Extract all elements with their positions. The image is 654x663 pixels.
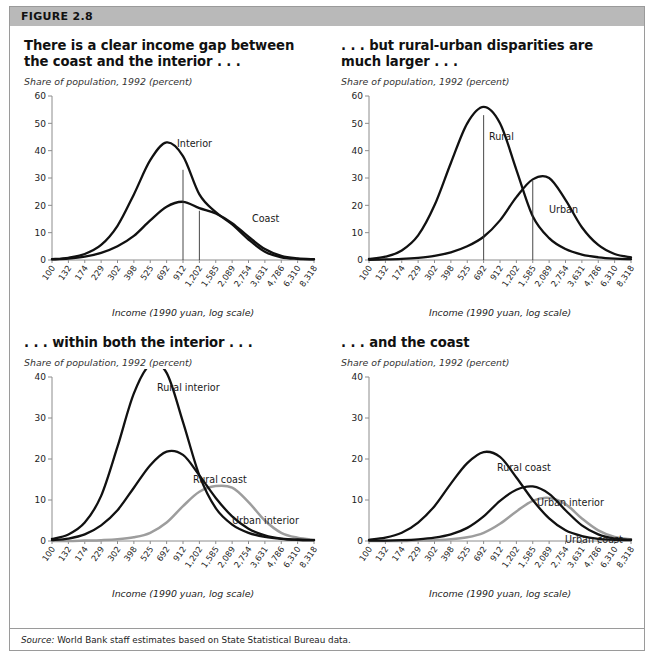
x-tick-label: 525 bbox=[138, 264, 155, 283]
panel-title: . . . but rural-urban disparities are mu… bbox=[341, 38, 636, 70]
y-tick-label: 60 bbox=[352, 91, 364, 101]
series-label: Coast bbox=[252, 213, 279, 224]
x-tick-label: 132 bbox=[373, 264, 390, 283]
x-tick-label: 302 bbox=[422, 264, 439, 283]
panel-title: . . . within both the interior . . . bbox=[24, 335, 319, 351]
x-tick-label: 100 bbox=[357, 545, 374, 564]
figure-number-band: FIGURE 2.8 bbox=[10, 7, 644, 27]
x-axis-title: Income (1990 yuan, log scale) bbox=[429, 588, 571, 599]
x-tick-label: 132 bbox=[373, 545, 390, 564]
x-axis-title: Income (1990 yuan, log scale) bbox=[429, 307, 571, 318]
x-tick-label: 692 bbox=[471, 545, 488, 564]
panel-coast-vs-interior: There is a clear income gap between the … bbox=[10, 31, 327, 328]
panel-title: There is a clear income gap between the … bbox=[24, 38, 319, 70]
panel-title: . . . and the coast bbox=[341, 335, 636, 351]
y-tick-label: 0 bbox=[40, 537, 46, 547]
x-tick-label: 100 bbox=[40, 545, 57, 564]
x-tick-label: 132 bbox=[56, 264, 73, 283]
x-tick-label: 398 bbox=[122, 264, 139, 283]
chart-rural-vs-urban: 0102030405060100132174229302398525692912… bbox=[337, 88, 637, 328]
x-tick-label: 8,318 bbox=[297, 264, 319, 289]
x-tick-label: 8,318 bbox=[614, 264, 636, 289]
y-tick-label: 50 bbox=[352, 119, 364, 129]
x-tick-label: 229 bbox=[89, 545, 106, 564]
panel-subtitle: Share of population, 1992 (percent) bbox=[341, 357, 636, 368]
x-tick-label: 174 bbox=[73, 264, 90, 283]
y-tick-label: 40 bbox=[352, 146, 364, 156]
x-tick-label: 692 bbox=[471, 264, 488, 283]
x-tick-label: 398 bbox=[439, 545, 456, 564]
panel-rural-vs-urban: . . . but rural-urban disparities are mu… bbox=[327, 31, 644, 328]
y-tick-label: 0 bbox=[357, 255, 363, 265]
panel-subtitle: Share of population, 1992 (percent) bbox=[24, 76, 319, 87]
chart-coast-vs-interior: 0102030405060100132174229302398525692912… bbox=[20, 88, 320, 328]
panel-subtitle: Share of population, 1992 (percent) bbox=[341, 76, 636, 87]
series-label: Interior bbox=[177, 138, 212, 149]
y-tick-label: 60 bbox=[35, 91, 47, 101]
y-tick-label: 10 bbox=[35, 496, 47, 506]
y-tick-label: 40 bbox=[35, 373, 47, 383]
panel-within-coast: . . . and the coast Share of population,… bbox=[327, 328, 644, 609]
y-tick-label: 0 bbox=[357, 537, 363, 547]
figure-number-label: FIGURE 2.8 bbox=[10, 10, 93, 23]
y-tick-label: 40 bbox=[35, 146, 47, 156]
series-label: Rural coast bbox=[193, 474, 247, 485]
y-tick-label: 20 bbox=[35, 455, 47, 465]
y-tick-label: 20 bbox=[35, 201, 47, 211]
panel-within-interior: . . . within both the interior . . . Sha… bbox=[10, 328, 327, 609]
series-label: Urban interior bbox=[537, 497, 604, 508]
figure-container: FIGURE 2.8 There is a clear income gap b… bbox=[9, 6, 645, 651]
x-tick-label: 525 bbox=[455, 264, 472, 283]
chart-within-interior: 0102030401001321742293023985256929121,20… bbox=[20, 369, 320, 609]
y-tick-label: 0 bbox=[40, 255, 46, 265]
x-tick-label: 100 bbox=[40, 264, 57, 283]
x-tick-label: 8,318 bbox=[297, 545, 319, 570]
y-tick-label: 30 bbox=[352, 414, 364, 424]
x-tick-label: 100 bbox=[357, 264, 374, 283]
x-tick-label: 692 bbox=[154, 545, 171, 564]
source-text: World Bank staff estimates based on Stat… bbox=[57, 635, 351, 645]
panel-subtitle: Share of population, 1992 (percent) bbox=[24, 357, 319, 368]
y-tick-label: 30 bbox=[35, 414, 47, 424]
series-label: Urban coast bbox=[565, 534, 623, 545]
y-tick-label: 30 bbox=[352, 173, 364, 183]
x-tick-label: 174 bbox=[390, 545, 407, 564]
series-label: Rural bbox=[489, 131, 514, 142]
x-tick-label: 174 bbox=[73, 545, 90, 564]
x-tick-label: 692 bbox=[154, 264, 171, 283]
y-tick-label: 20 bbox=[352, 201, 364, 211]
x-axis-title: Income (1990 yuan, log scale) bbox=[112, 307, 254, 318]
series-label: Rural interior bbox=[157, 382, 220, 393]
x-tick-label: 229 bbox=[406, 264, 423, 283]
y-tick-label: 20 bbox=[352, 455, 364, 465]
x-tick-label: 8,318 bbox=[614, 545, 636, 570]
series-curve bbox=[52, 451, 314, 540]
y-tick-label: 10 bbox=[35, 228, 47, 238]
y-tick-label: 40 bbox=[352, 373, 364, 383]
panel-grid: There is a clear income gap between the … bbox=[10, 27, 644, 609]
chart-within-coast: 0102030401001321742293023985256929121,20… bbox=[337, 369, 637, 609]
x-axis-title: Income (1990 yuan, log scale) bbox=[112, 588, 254, 599]
x-tick-label: 174 bbox=[390, 264, 407, 283]
series-label: Urban interior bbox=[232, 515, 299, 526]
x-tick-label: 229 bbox=[406, 545, 423, 564]
y-tick-label: 10 bbox=[352, 496, 364, 506]
series-label: Urban bbox=[549, 204, 578, 215]
x-tick-label: 398 bbox=[439, 264, 456, 283]
y-tick-label: 30 bbox=[35, 173, 47, 183]
x-tick-label: 229 bbox=[89, 264, 106, 283]
y-tick-label: 10 bbox=[352, 228, 364, 238]
x-tick-label: 302 bbox=[105, 264, 122, 283]
source-prefix: Source: bbox=[21, 635, 54, 645]
x-tick-label: 525 bbox=[138, 545, 155, 564]
series-label: Rural coast bbox=[497, 462, 551, 473]
x-tick-label: 302 bbox=[422, 545, 439, 564]
series-curve bbox=[369, 176, 631, 260]
x-tick-label: 302 bbox=[105, 545, 122, 564]
x-tick-label: 132 bbox=[56, 545, 73, 564]
series-curve bbox=[369, 107, 631, 259]
x-tick-label: 398 bbox=[122, 545, 139, 564]
series-curve bbox=[369, 487, 631, 541]
y-tick-label: 50 bbox=[35, 119, 47, 129]
source-note: Source: World Bank staff estimates based… bbox=[10, 628, 644, 650]
